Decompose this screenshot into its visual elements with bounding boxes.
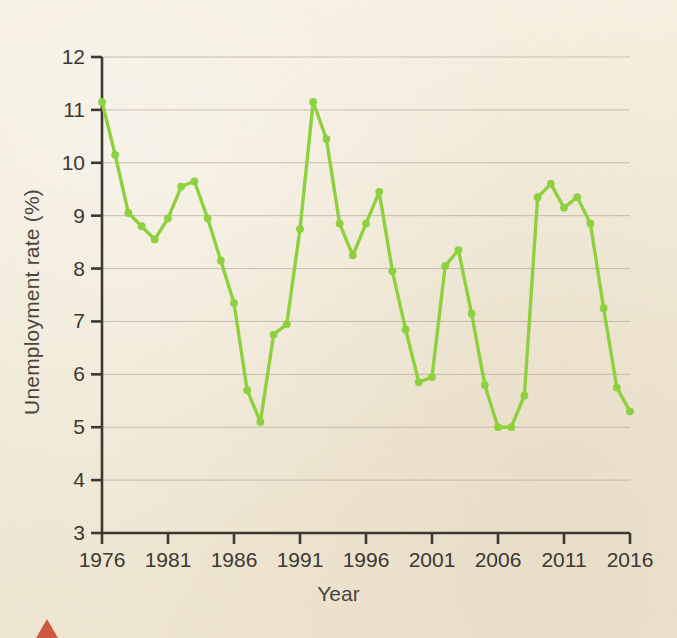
data-point: [468, 310, 476, 318]
corner-triangle-mark: [36, 619, 58, 638]
data-point: [375, 188, 383, 196]
data-point: [534, 193, 542, 201]
data-point: [204, 214, 212, 222]
data-point: [507, 423, 515, 431]
data-point: [613, 384, 621, 392]
data-point: [481, 381, 489, 389]
data-point: [573, 193, 581, 201]
x-axis-title: Year: [0, 582, 677, 606]
data-point: [428, 373, 436, 381]
chart-container: Unemployment rate (%) Year 1211109876543…: [0, 0, 677, 638]
data-point: [336, 220, 344, 228]
data-point: [362, 220, 370, 228]
y-tick-label: 3: [41, 522, 85, 543]
data-point: [217, 257, 225, 265]
data-point: [441, 262, 449, 270]
data-point: [151, 236, 159, 244]
data-point: [283, 320, 291, 328]
data-point: [455, 246, 463, 254]
y-tick-label: 8: [41, 258, 85, 279]
data-point: [494, 423, 502, 431]
y-tick-label: 5: [41, 416, 85, 437]
data-point: [98, 98, 106, 106]
y-tick-label: 4: [41, 469, 85, 490]
data-line-0: [102, 102, 630, 427]
data-point: [270, 331, 278, 339]
data-point: [191, 177, 199, 185]
data-point: [164, 214, 172, 222]
data-point: [560, 204, 568, 212]
data-point: [323, 135, 331, 143]
y-tick-label: 10: [41, 152, 85, 173]
axis-spine: [102, 57, 630, 533]
x-tick-label: 2016: [585, 549, 675, 570]
data-point: [402, 325, 410, 333]
y-tick-label: 7: [41, 310, 85, 331]
data-point: [243, 386, 251, 394]
data-point: [230, 299, 238, 307]
y-tick-label: 12: [41, 46, 85, 67]
data-point: [257, 418, 265, 426]
data-point: [296, 225, 304, 233]
data-point: [349, 251, 357, 259]
line-chart-plot: [0, 0, 677, 638]
data-point: [587, 220, 595, 228]
data-point: [389, 267, 397, 275]
y-tick-label: 9: [41, 205, 85, 226]
y-tick-label: 11: [41, 99, 85, 120]
data-point: [547, 180, 555, 188]
data-point: [309, 98, 317, 106]
data-point: [111, 151, 119, 159]
data-point: [600, 304, 608, 312]
data-point: [177, 183, 185, 191]
data-point: [415, 378, 423, 386]
data-point: [521, 392, 529, 400]
data-point: [626, 407, 634, 415]
y-tick-label: 6: [41, 363, 85, 384]
data-point: [138, 222, 146, 230]
data-point: [124, 209, 132, 217]
